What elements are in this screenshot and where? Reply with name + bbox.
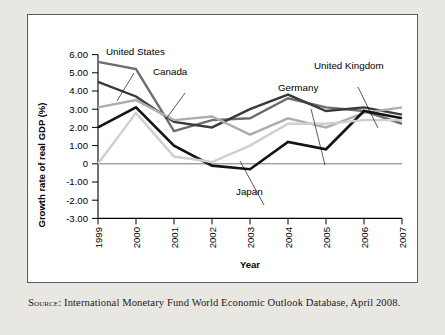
x-tick-marks <box>98 218 402 224</box>
x-tick-label: 1999 <box>93 227 104 248</box>
chart-plot-area: Growth rate of real GDP (%) 6.00 5.00 4.… <box>28 15 419 284</box>
y-tick-marks <box>92 55 98 219</box>
series-annotation-united-kingdom: United Kingdom <box>314 60 384 71</box>
x-tick-label: 2005 <box>321 227 332 248</box>
x-tick-label: 2002 <box>207 227 218 248</box>
x-tick-label: 2006 <box>359 227 370 248</box>
x-tick-label: 2001 <box>169 227 180 248</box>
figure-box: Growth rate of real GDP (%) 6.00 5.00 4.… <box>27 14 418 283</box>
source-citation: International Monetary Fund World Econom… <box>61 297 400 308</box>
x-tick-label: 2000 <box>131 227 142 248</box>
series-annotation-united-states: United States <box>106 46 165 57</box>
x-axis-title: Year <box>240 259 260 270</box>
y-tick-label: -3.00 <box>66 213 88 224</box>
y-axis-title: Growth rate of real GDP (%) <box>36 103 47 228</box>
series-lines-group <box>98 62 402 169</box>
source-label: Source: <box>28 297 61 308</box>
y-tick-label: 5.00 <box>69 67 88 78</box>
source-note: Source: International Monetary Fund Worl… <box>28 297 438 308</box>
y-tick-label: 0 <box>83 158 88 169</box>
y-tick-label: 3.00 <box>69 104 88 115</box>
y-tick-label: 4.00 <box>69 85 88 96</box>
leader-line-canada <box>166 93 185 119</box>
series-annotation-canada: Canada <box>153 66 188 77</box>
x-tick-labels: 1999 2000 2001 2002 2003 2004 2005 2006 … <box>93 226 408 248</box>
x-tick-label: 2003 <box>245 227 256 248</box>
series-line-japan <box>98 113 402 164</box>
y-tick-labels: 6.00 5.00 4.00 3.00 2.00 1.00 0 -1.00 -2… <box>66 49 88 224</box>
figure-root: Growth rate of real GDP (%) 6.00 5.00 4.… <box>0 0 445 335</box>
x-tick-label: 2004 <box>283 226 294 248</box>
gdp-growth-line-chart: Growth rate of real GDP (%) 6.00 5.00 4.… <box>28 15 419 284</box>
x-tick-label: 2007 <box>397 227 408 248</box>
y-tick-label: 6.00 <box>69 49 88 60</box>
y-tick-label: -2.00 <box>66 195 88 206</box>
y-tick-label: 2.00 <box>69 122 88 133</box>
leader-line-germany <box>311 109 325 165</box>
leader-line-united-states <box>117 73 134 101</box>
y-tick-label: 1.00 <box>69 140 88 151</box>
y-tick-label: -1.00 <box>66 176 88 187</box>
series-annotation-japan: Japan <box>236 186 263 197</box>
series-annotation-germany: Germany <box>278 82 318 93</box>
